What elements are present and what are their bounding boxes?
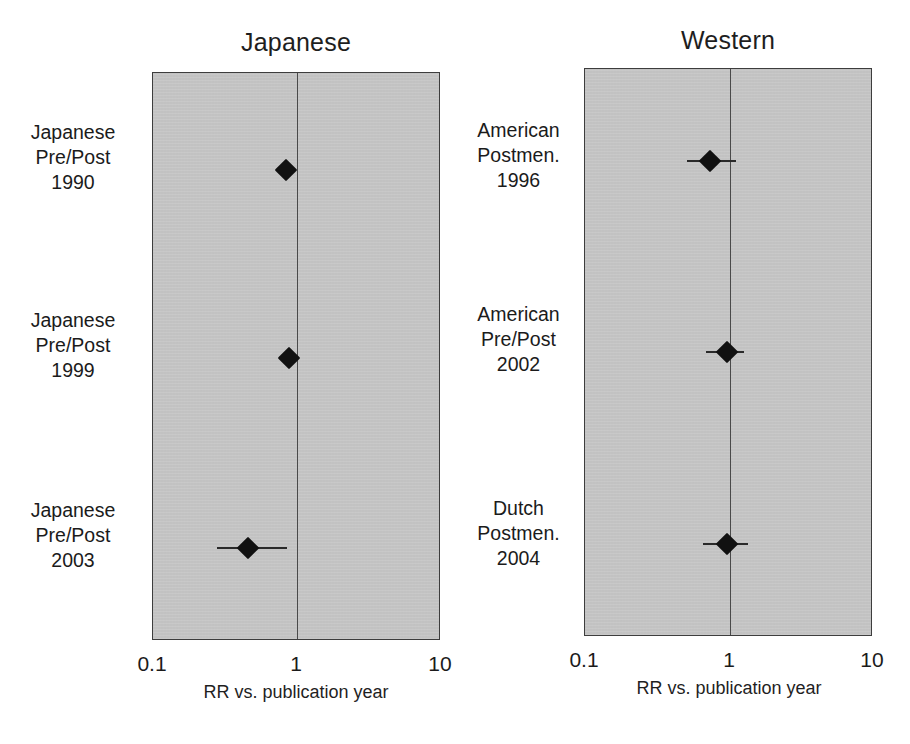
axis-tick-low-western: 0.1 — [569, 648, 598, 672]
row-label-line3: 1996 — [455, 168, 582, 193]
row-label-line1: American — [455, 118, 582, 143]
row-label-american-prepost-2002: American Pre/Post 2002 — [455, 302, 582, 377]
row-label-line1: Japanese — [0, 498, 146, 523]
row-label-line2: Pre/Post — [0, 523, 146, 548]
row-label-line1: American — [455, 302, 582, 327]
row-label-line1: Japanese — [0, 120, 146, 145]
row-label-line2: Pre/Post — [0, 145, 146, 170]
axis-caption-western: RR vs. publication year — [636, 678, 821, 699]
forest-plot-figure: Japanese Japanese Pre/Post 1990 Japanese… — [0, 0, 910, 744]
plot-area-western — [584, 68, 872, 636]
row-label-line3: 2004 — [455, 546, 582, 571]
axis-tick-high-japanese: 10 — [428, 652, 451, 676]
row-label-line3: 1999 — [0, 358, 146, 383]
row-label-line2: Postmen. — [455, 521, 582, 546]
panel-western: Western American Postmen. 1996 American … — [455, 0, 910, 744]
row-label-dutch-postmen-2004: Dutch Postmen. 2004 — [455, 496, 582, 571]
row-label-line3: 2003 — [0, 548, 146, 573]
marker-diamond-japanese-1990 — [275, 159, 298, 182]
row-label-line1: Dutch — [455, 496, 582, 521]
row-label-line2: Pre/Post — [455, 327, 582, 352]
panel-title-western: Western — [584, 26, 872, 55]
row-label-line3: 1990 — [0, 170, 146, 195]
marker-diamond-japanese-2003 — [236, 537, 259, 560]
row-label-japanese-1999: Japanese Pre/Post 1999 — [0, 308, 146, 383]
plot-area-japanese — [152, 72, 440, 640]
row-label-american-postmen-1996: American Postmen. 1996 — [455, 118, 582, 193]
axis-tick-mid-western: 1 — [723, 648, 735, 672]
axis-tick-high-western: 10 — [860, 648, 883, 672]
row-label-japanese-1990: Japanese Pre/Post 1990 — [0, 120, 146, 195]
marker-diamond-american-prepost-2002 — [715, 341, 738, 364]
marker-diamond-american-postmen-1996 — [699, 150, 722, 173]
row-label-line2: Postmen. — [455, 143, 582, 168]
row-label-japanese-2003: Japanese Pre/Post 2003 — [0, 498, 146, 573]
row-label-line3: 2002 — [455, 352, 582, 377]
panel-title-japanese: Japanese — [152, 28, 440, 57]
axis-tick-low-japanese: 0.1 — [137, 652, 166, 676]
panel-japanese: Japanese Japanese Pre/Post 1990 Japanese… — [0, 0, 455, 744]
row-label-line2: Pre/Post — [0, 333, 146, 358]
axis-caption-japanese: RR vs. publication year — [203, 682, 388, 703]
axis-tick-mid-japanese: 1 — [290, 652, 302, 676]
row-label-line1: Japanese — [0, 308, 146, 333]
marker-diamond-dutch-postmen-2004 — [715, 533, 738, 556]
